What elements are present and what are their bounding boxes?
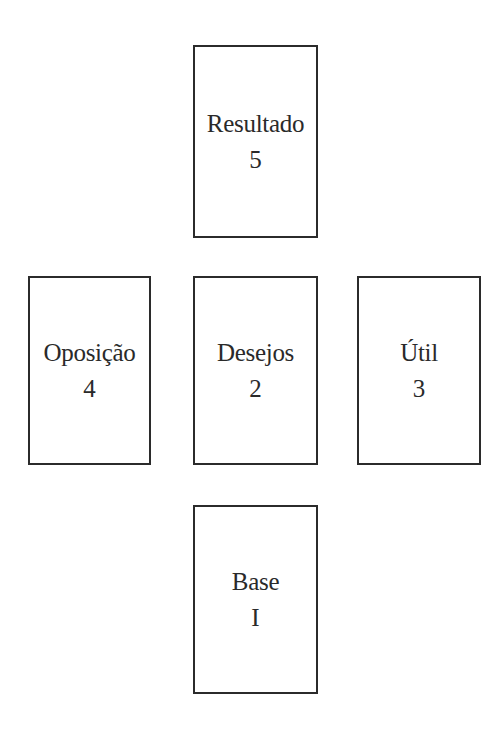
card-number: 4 bbox=[83, 373, 96, 405]
card-number: 5 bbox=[249, 144, 262, 176]
card-number: I bbox=[251, 602, 259, 634]
card-position-result: Resultado 5 bbox=[193, 45, 318, 238]
card-position-desires: Desejos 2 bbox=[193, 276, 318, 465]
card-position-useful: Útil 3 bbox=[357, 276, 481, 465]
card-position-opposition: Oposição 4 bbox=[28, 276, 151, 465]
card-position-base: Base I bbox=[193, 505, 318, 694]
card-label: Útil bbox=[400, 337, 438, 369]
card-label: Resultado bbox=[207, 108, 304, 140]
card-number: 2 bbox=[249, 373, 262, 405]
card-label: Base bbox=[232, 566, 279, 598]
card-label: Desejos bbox=[217, 337, 294, 369]
card-number: 3 bbox=[413, 373, 426, 405]
card-label: Oposição bbox=[43, 337, 135, 369]
